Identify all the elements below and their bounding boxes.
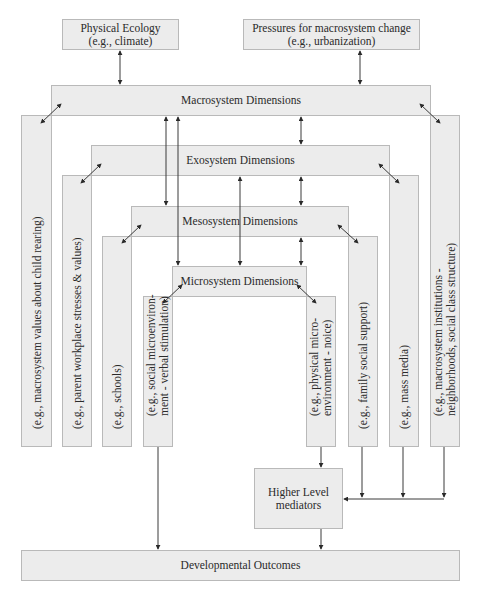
connector-layer [0, 0, 480, 594]
arrow-exo-right-col [379, 164, 399, 183]
arrow-exo-left-col [81, 164, 101, 183]
arrow-macro-left-col [41, 104, 61, 123]
arrow-macro-right-col [420, 104, 440, 123]
arrow-micro-right-col [297, 285, 316, 303]
arrow-micro-left-col [163, 285, 182, 303]
arrow-meso-left-col [122, 225, 141, 243]
arrow-meso-right-col [338, 225, 358, 243]
